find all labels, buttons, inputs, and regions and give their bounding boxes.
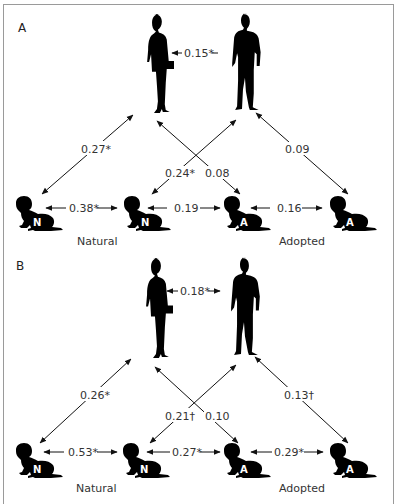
child-natural-2: N: [124, 196, 171, 231]
corr-mother-natural-b: 0.26*: [80, 389, 110, 402]
corr-mother-natural-a: 0.27*: [81, 143, 111, 156]
svg-text:A: A: [240, 217, 248, 228]
group-label-adopted-a: Adopted: [279, 235, 325, 248]
arrow-father-natural-a: [152, 120, 236, 194]
sibling-corr-3-a: 0.16: [277, 202, 302, 215]
svg-text:N: N: [33, 217, 41, 228]
corr-father-adopted-a: 0.09: [285, 143, 310, 156]
group-label-natural-b: Natural: [76, 482, 117, 495]
panel-b: B 0.18* 0.26* 0.21† 0.10 0.13† N N A: [16, 257, 377, 495]
child-adopted-2: A: [330, 196, 377, 231]
father-silhouette-icon: [231, 257, 260, 355]
parent-correlation-b: 0.18*: [180, 285, 210, 298]
child-adopted-1: A: [224, 196, 271, 231]
child-adopted-2: A: [330, 443, 377, 478]
mother-silhouette-icon: [147, 14, 175, 113]
child-natural-1: N: [16, 196, 63, 231]
arrow-mother-adopted-a: [157, 121, 240, 194]
svg-text:A: A: [346, 217, 354, 228]
svg-text:N: N: [141, 217, 149, 228]
corr-mother-adopted-b: 0.10: [205, 410, 230, 423]
child-adopted-1: A: [224, 443, 271, 478]
corr-father-natural-b: 0.21†: [165, 410, 195, 423]
corr-father-natural-a: 0.24*: [165, 167, 195, 180]
svg-text:N: N: [33, 464, 41, 475]
sibling-corr-3-b: 0.29*: [274, 446, 304, 459]
panel-label-a: A: [18, 21, 27, 35]
sibling-corr-1-b: 0.53*: [68, 446, 98, 459]
child-natural-2: N: [123, 443, 170, 478]
parent-correlation-a: 0.15*: [184, 47, 214, 60]
arrow-mother-adopted-b: [155, 367, 238, 443]
svg-text:A: A: [346, 464, 354, 475]
panel-label-b: B: [16, 259, 24, 273]
group-label-natural-a: Natural: [77, 235, 118, 248]
svg-text:A: A: [240, 464, 248, 475]
svg-text:N: N: [140, 464, 148, 475]
father-silhouette-icon: [232, 13, 260, 110]
corr-mother-adopted-a: 0.08: [205, 167, 230, 180]
corr-father-adopted-b: 0.13†: [284, 389, 314, 402]
arrow-father-natural-b: [150, 365, 236, 443]
group-label-adopted-b: Adopted: [279, 482, 325, 495]
sibling-corr-1-a: 0.38*: [69, 202, 99, 215]
child-natural-1: N: [16, 443, 63, 478]
sibling-corr-2-b: 0.27*: [172, 446, 202, 459]
panel-a: A 0.15* 0.27* 0.24* 0.08 0.09 N N A: [16, 13, 377, 248]
sibling-corr-2-a: 0.19: [174, 202, 199, 215]
mother-silhouette-icon: [146, 258, 175, 358]
